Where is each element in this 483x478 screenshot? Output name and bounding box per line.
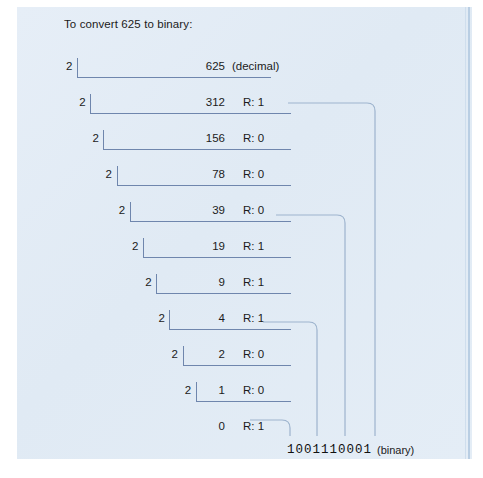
remainder-value: R: 1 <box>243 312 264 324</box>
remainder-value: R: 0 <box>243 384 264 396</box>
divisor-value: 2 <box>119 204 125 216</box>
quotient-value: 39 <box>139 204 225 216</box>
panel-edge-inner <box>465 7 466 459</box>
binary-result: 1001110001 <box>287 443 372 457</box>
divisor-value: 2 <box>158 312 164 324</box>
figure-title: To convert 625 to binary: <box>64 18 192 30</box>
divisor-value: 2 <box>145 276 151 288</box>
quotient-value: 2 <box>192 348 225 360</box>
remainder-value: R: 0 <box>243 168 264 180</box>
quotient-value: 625 <box>86 60 225 72</box>
decimal-annotation: (decimal) <box>232 60 279 72</box>
quotient-value: 1 <box>205 384 225 396</box>
remainder-value: R: 0 <box>243 348 264 360</box>
panel-edge-right <box>468 7 470 459</box>
divisor-value: 2 <box>92 132 98 144</box>
binary-conversion-figure: To convert 625 to binary: 2625(decimal)2… <box>0 0 483 478</box>
remainder-value: R: 1 <box>243 420 264 432</box>
remainder-value: R: 0 <box>243 132 264 144</box>
quotient-value: 4 <box>178 312 225 324</box>
divisor-value: 2 <box>79 96 85 108</box>
quotient-value: 156 <box>112 132 225 144</box>
quotient-value: 0 <box>218 420 225 432</box>
remainder-value: R: 0 <box>243 204 264 216</box>
divisor-value: 2 <box>66 60 72 72</box>
quotient-value: 9 <box>165 276 225 288</box>
quotient-value: 19 <box>152 240 225 252</box>
remainder-value: R: 1 <box>243 96 264 108</box>
divisor-value: 2 <box>132 240 138 252</box>
divisor-value: 2 <box>185 384 191 396</box>
remainder-value: R: 1 <box>243 240 264 252</box>
remainder-value: R: 1 <box>243 276 264 288</box>
quotient-value: 312 <box>99 96 225 108</box>
divisor-value: 2 <box>172 348 178 360</box>
binary-annotation: (binary) <box>377 444 414 456</box>
quotient-value: 78 <box>126 168 225 180</box>
divisor-value: 2 <box>106 168 112 180</box>
